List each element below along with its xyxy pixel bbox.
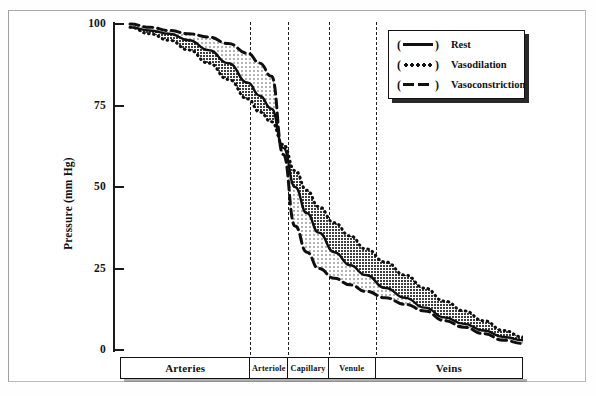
segment-veins: Veins: [376, 358, 522, 378]
y-axis-tick-label: 50: [80, 181, 106, 193]
segment-arteries: Arteries: [121, 358, 250, 378]
dotted-line-sample: (): [397, 59, 449, 71]
legend-item-rest: ()Rest: [397, 35, 524, 55]
legend-box: ()Rest()Vasodilation()Vasoconstriction: [388, 30, 525, 99]
segment-bar: ArteriesArterioleCapillaryVenuleVeins: [120, 357, 523, 379]
segment-label: Capillary: [291, 364, 326, 373]
figure-caption: [350, 385, 590, 396]
y-axis-tick-label: 75: [80, 100, 106, 112]
segment-label: Arteries: [165, 362, 205, 374]
legend-item-vasodilation: ()Vasodilation: [397, 55, 524, 75]
y-axis-label: Pressure (mm Hg): [62, 157, 74, 250]
y-axis-tick-label: 100: [80, 18, 106, 30]
segment-capillary: Capillary: [288, 358, 329, 378]
segment-label: Venule: [339, 364, 364, 373]
segment-bar-shadow: [124, 379, 527, 382]
y-axis-tick-label: 25: [80, 263, 106, 275]
y-axis-tick-label: 0: [80, 344, 106, 356]
segment-label: Arteriole: [252, 364, 286, 373]
segment-arteriole: Arteriole: [250, 358, 288, 378]
dashed-line-sample: (): [397, 79, 449, 91]
segment-venule: Venule: [329, 358, 376, 378]
legend-label: Vasoconstriction: [449, 79, 525, 90]
legend-label: Vasodilation: [449, 59, 507, 70]
solid-line-sample: (): [397, 39, 449, 51]
legend-item-vasoconstriction: ()Vasoconstriction: [397, 75, 524, 95]
legend-label: Rest: [449, 39, 471, 50]
segment-label: Veins: [436, 362, 462, 374]
figure-container: Pressure (mm Hg) 0255075100 ()Rest()Vaso…: [0, 0, 596, 396]
